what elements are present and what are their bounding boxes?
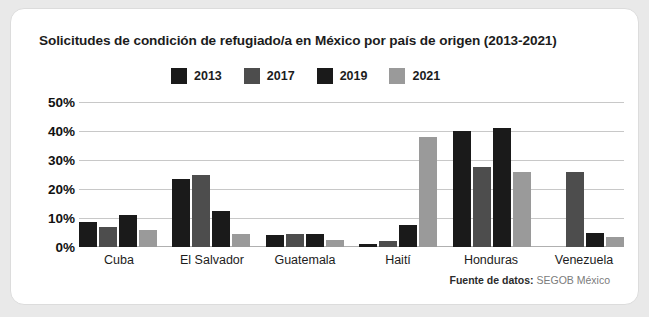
bar-el-salvador-2019[interactable]: [212, 211, 230, 247]
y-axis-tick-10: 10%: [48, 211, 75, 226]
bar-honduras-2021[interactable]: [513, 172, 531, 247]
bar-haití-2019[interactable]: [399, 225, 417, 247]
x-axis-label-guatemala: Guatemala: [265, 253, 345, 273]
y-axis-tick-0: 0%: [55, 240, 75, 255]
bar-honduras-2019[interactable]: [493, 128, 511, 247]
bar-guatemala-2021[interactable]: [326, 240, 344, 247]
bar-guatemala-2019[interactable]: [306, 234, 324, 247]
x-axis-label-cuba: Cuba: [79, 253, 159, 273]
y-axis-tick-50: 50%: [48, 95, 75, 110]
source-note: Fuente de datos: SEGOB México: [450, 274, 610, 286]
y-axis-tick-30: 30%: [48, 153, 75, 168]
bar-honduras-2013[interactable]: [453, 131, 471, 247]
bar-honduras-2017[interactable]: [473, 167, 491, 247]
bar-el-salvador-2013[interactable]: [172, 179, 190, 247]
y-axis: 50%40%30%20%10%0%: [23, 94, 75, 248]
plot-area: 50%40%30%20%10%0% CubaEl SalvadorGuatema…: [11, 9, 640, 306]
bar-group-venezuela: [546, 102, 624, 247]
bar-group-guatemala: [266, 102, 344, 247]
bar-venezuela-2021[interactable]: [606, 237, 624, 247]
plot-canvas: [79, 102, 624, 247]
bar-group-honduras: [453, 102, 531, 247]
x-axis: CubaEl SalvadorGuatemalaHaitíHondurasVen…: [79, 253, 624, 273]
x-axis-label-haití: Haití: [358, 253, 438, 273]
bar-cuba-2019[interactable]: [119, 215, 137, 247]
bar-guatemala-2013[interactable]: [266, 235, 284, 247]
bar-venezuela-2019[interactable]: [586, 233, 604, 248]
x-axis-label-honduras: Honduras: [451, 253, 531, 273]
bar-group-cuba: [79, 102, 157, 247]
bar-cuba-2021[interactable]: [139, 230, 157, 247]
bar-el-salvador-2017[interactable]: [192, 175, 210, 248]
y-axis-tick-20: 20%: [48, 182, 75, 197]
bar-haití-2013[interactable]: [359, 244, 377, 247]
bar-haití-2021[interactable]: [419, 137, 437, 247]
bar-cuba-2013[interactable]: [79, 222, 97, 247]
x-axis-label-el-salvador: El Salvador: [172, 253, 252, 273]
bar-groups: [79, 102, 624, 247]
y-axis-tick-40: 40%: [48, 124, 75, 139]
bar-guatemala-2017[interactable]: [286, 234, 304, 247]
source-value: SEGOB México: [534, 274, 610, 286]
chart-card: Solicitudes de condición de refugiado/a …: [10, 8, 639, 305]
bar-group-haití: [359, 102, 437, 247]
bar-haití-2017[interactable]: [379, 241, 397, 247]
bar-el-salvador-2021[interactable]: [232, 234, 250, 247]
bar-cuba-2017[interactable]: [99, 227, 117, 247]
bar-group-el-salvador: [172, 102, 250, 247]
x-axis-label-venezuela: Venezuela: [544, 253, 624, 273]
bar-venezuela-2017[interactable]: [566, 172, 584, 247]
source-prefix: Fuente de datos:: [450, 274, 534, 286]
